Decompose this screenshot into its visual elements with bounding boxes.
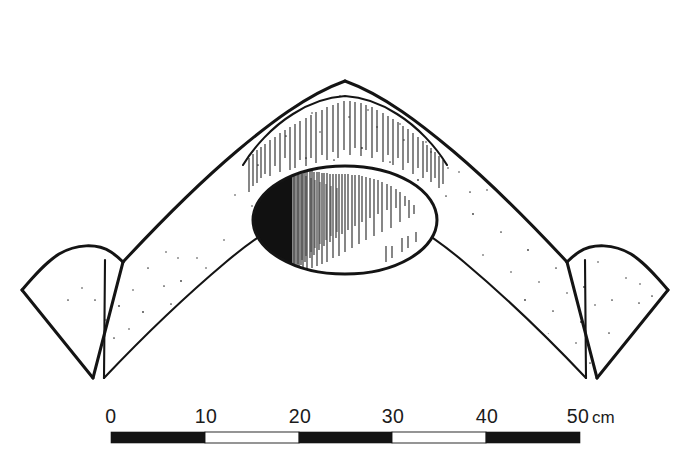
scale-bar-segments bbox=[111, 432, 580, 443]
scale-unit-label: cm bbox=[592, 408, 615, 427]
scale-bar-labels: 0 10 20 30 40 50 cm bbox=[105, 405, 614, 427]
artifact-illustration: 0 10 20 30 40 50 cm bbox=[0, 0, 690, 463]
scale-segment-30-40 bbox=[392, 432, 486, 443]
scale-tick-label-20: 20 bbox=[289, 405, 312, 427]
scale-segment-10-20 bbox=[205, 432, 299, 443]
scale-segment-20-30 bbox=[299, 432, 392, 443]
scale-tick-label-50: 50 bbox=[567, 405, 590, 427]
scale-tick-label-10: 10 bbox=[195, 405, 218, 427]
scale-tick-label-0: 0 bbox=[105, 405, 116, 427]
right-terminal-ridge bbox=[585, 260, 586, 378]
scale-bar: 0 10 20 30 40 50 cm bbox=[105, 405, 614, 443]
figure-root: 0 10 20 30 40 50 cm bbox=[0, 0, 690, 463]
artifact-body bbox=[22, 80, 668, 378]
scale-tick-label-30: 30 bbox=[382, 405, 405, 427]
scale-tick-label-40: 40 bbox=[476, 405, 499, 427]
left-terminal-ridge bbox=[104, 260, 105, 378]
scale-segment-40-50 bbox=[486, 432, 580, 443]
scale-segment-0-10 bbox=[111, 432, 205, 443]
